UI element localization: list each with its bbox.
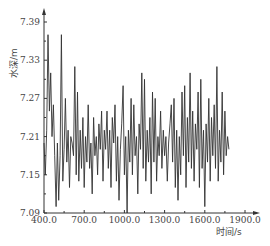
y-tick-label: 7.21 [20,132,40,142]
series-line [44,35,229,213]
line-chart: 400.0700.01000.01300.01600.01900.0 7.097… [0,0,270,246]
y-axis-title: 水深/m [8,48,19,78]
x-axis-title: 时间/s [216,226,242,237]
data-line [44,35,229,213]
y-tick-label: 7.33 [20,55,40,65]
x-ticks: 400.0700.01000.01300.01600.01900.0 [31,210,261,225]
y-ticks: 7.097.157.217.277.337.39 [20,17,47,218]
y-tick-label: 7.09 [20,208,40,218]
x-tick-label: 1300.0 [149,215,181,225]
x-tick-label: 1000.0 [109,215,141,225]
x-tick-label: 700.0 [71,215,97,225]
y-tick-label: 7.27 [20,93,40,103]
y-axis-arrow-icon [42,8,46,15]
x-tick-label: 1900.0 [229,215,261,225]
y-tick-label: 7.39 [20,17,40,27]
x-tick-label: 1600.0 [189,215,221,225]
y-tick-label: 7.15 [20,170,40,180]
